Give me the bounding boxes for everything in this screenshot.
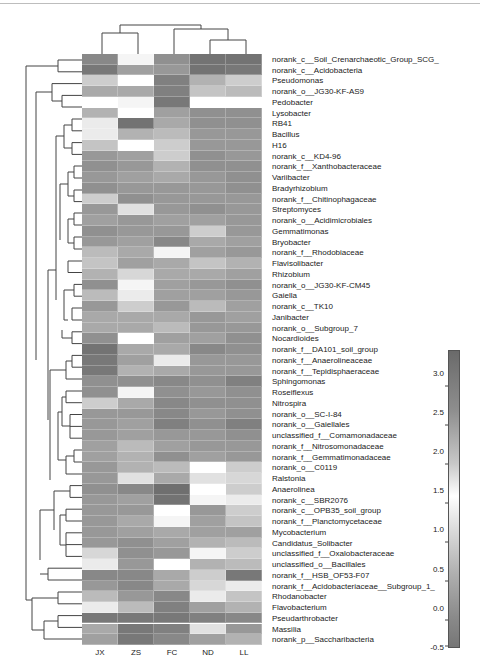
heatmap-cell	[154, 387, 190, 398]
heatmap-cell	[226, 97, 262, 108]
heatmap-cell	[154, 591, 190, 602]
heatmap-cell	[226, 441, 262, 452]
heatmap-cell	[154, 548, 190, 559]
colorbar-tick-label: 0.5	[418, 565, 444, 574]
heatmap-cell	[82, 495, 118, 506]
column-label: ZS	[118, 648, 154, 657]
heatmap-grid	[82, 54, 262, 645]
heatmap-cell	[118, 118, 154, 129]
heatmap-cell	[118, 75, 154, 86]
heatmap-cell	[82, 387, 118, 398]
heatmap-cell	[154, 634, 190, 645]
heatmap-cell	[190, 323, 226, 334]
heatmap-cell	[190, 505, 226, 516]
heatmap-cell	[226, 355, 262, 366]
heatmap-cell	[118, 204, 154, 215]
column-label: LL	[226, 648, 262, 657]
heatmap-cell	[82, 161, 118, 172]
row-label: norank_p__Saccharibacteria	[272, 634, 374, 646]
heatmap-cell	[118, 441, 154, 452]
column-label: ND	[190, 648, 226, 657]
heatmap-cell	[82, 559, 118, 570]
heatmap-cell	[190, 462, 226, 473]
heatmap-cell	[226, 376, 262, 387]
heatmap-cell	[118, 570, 154, 581]
heatmap-cell	[226, 516, 262, 527]
heatmap-cell	[118, 301, 154, 312]
heatmap-cell	[154, 215, 190, 226]
heatmap-cell	[226, 86, 262, 97]
heatmap-cell	[190, 97, 226, 108]
heatmap-cell	[82, 75, 118, 86]
heatmap-cell	[190, 495, 226, 506]
heatmap-cell	[154, 333, 190, 344]
heatmap-cell	[154, 194, 190, 205]
heatmap-cell	[190, 570, 226, 581]
heatmap-cell	[190, 376, 226, 387]
heatmap-cell	[118, 97, 154, 108]
heatmap-cell	[190, 344, 226, 355]
heatmap-cell	[226, 204, 262, 215]
heatmap-cell	[118, 194, 154, 205]
heatmap-cell	[82, 527, 118, 538]
heatmap-cell	[82, 269, 118, 280]
heatmap-cell	[154, 516, 190, 527]
heatmap-cell	[118, 484, 154, 495]
heatmap-cell	[154, 613, 190, 624]
heatmap-cell	[118, 591, 154, 602]
heatmap-cell	[190, 75, 226, 86]
heatmap-cell	[82, 570, 118, 581]
heatmap-cell	[118, 151, 154, 162]
heatmap-cell	[118, 452, 154, 463]
heatmap-cell	[82, 323, 118, 334]
heatmap-cell	[226, 247, 262, 258]
heatmap-cell	[226, 194, 262, 205]
heatmap-cell	[226, 462, 262, 473]
heatmap-cell	[190, 247, 226, 258]
heatmap-cell	[190, 634, 226, 645]
heatmap-cell	[82, 634, 118, 645]
heatmap-cell	[118, 495, 154, 506]
heatmap-cell	[190, 54, 226, 65]
heatmap-cell	[154, 570, 190, 581]
heatmap-cell	[154, 237, 190, 248]
heatmap-cell	[82, 505, 118, 516]
heatmap-cell	[226, 452, 262, 463]
heatmap-cell	[190, 226, 226, 237]
heatmap-cell	[226, 559, 262, 570]
heatmap-cell	[82, 54, 118, 65]
heatmap-cell	[118, 65, 154, 76]
heatmap-cell	[190, 538, 226, 549]
heatmap-cell	[82, 86, 118, 97]
heatmap-cell	[226, 581, 262, 592]
colorbar-tick-label: 0.0	[418, 604, 444, 613]
heatmap-cell	[154, 118, 190, 129]
heatmap-cell	[82, 140, 118, 151]
heatmap-cell	[118, 280, 154, 291]
heatmap-cell	[154, 204, 190, 215]
heatmap-cell	[226, 344, 262, 355]
heatmap-cell	[82, 581, 118, 592]
heatmap-cell	[118, 108, 154, 119]
heatmap-cell	[226, 323, 262, 334]
heatmap-cell	[226, 548, 262, 559]
heatmap-cell	[154, 344, 190, 355]
column-dendrogram	[102, 25, 246, 54]
heatmap-cell	[154, 538, 190, 549]
heatmap-cell	[154, 323, 190, 334]
heatmap-cell	[190, 441, 226, 452]
heatmap-cell	[82, 333, 118, 344]
heatmap-cell	[82, 215, 118, 226]
heatmap-cell	[154, 473, 190, 484]
heatmap-cell	[154, 312, 190, 323]
heatmap-cell	[226, 183, 262, 194]
heatmap-cell	[190, 548, 226, 559]
heatmap-cell	[154, 430, 190, 441]
heatmap-cell	[154, 527, 190, 538]
heatmap-cell	[190, 516, 226, 527]
heatmap-cell	[190, 613, 226, 624]
heatmap-cell	[190, 118, 226, 129]
heatmap-cell	[154, 258, 190, 269]
heatmap-cell	[82, 108, 118, 119]
heatmap-cell	[154, 183, 190, 194]
